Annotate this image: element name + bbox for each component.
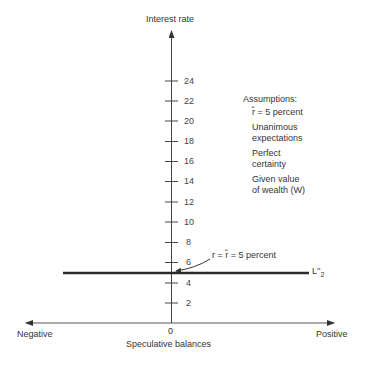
y-tick-label-14: 14 [184, 176, 194, 186]
y-tick-label-12: 12 [184, 197, 194, 207]
y-tick-label-10: 10 [184, 217, 194, 227]
curve-label: L''2 [312, 266, 324, 280]
y-axis-title: Interest rate [146, 14, 194, 25]
assumption-certainty-line2: certainty [252, 159, 305, 170]
assumption-wealth-line1: Given value [252, 174, 305, 185]
y-tick-label-6: 6 [186, 257, 191, 267]
assumption-certainty-line1: Perfect [252, 148, 305, 159]
assumption-rhat: r̂ = 5 percent [252, 107, 305, 118]
negative-label: Negative [17, 329, 53, 340]
assumption-wealth: Given value of wealth (W) [252, 174, 305, 196]
y-tick-label-8: 8 [186, 237, 191, 247]
y-tick-label-22: 22 [184, 96, 194, 106]
y-tick-label-20: 20 [184, 116, 194, 126]
positive-label: Positive [316, 329, 348, 340]
assumptions-box: Assumptions: r̂ = 5 percent Unanimous ex… [243, 94, 305, 200]
chart-canvas [0, 0, 366, 369]
assumption-certainty: Perfect certainty [252, 148, 305, 170]
assumptions-heading: Assumptions: [243, 94, 305, 105]
x-axis-title: Speculative balances [126, 339, 211, 350]
assumption-unanimous-line1: Unanimous [252, 122, 305, 133]
curve-label-sub: 2 [320, 271, 324, 278]
assumption-wealth-line2: of wealth (W) [252, 185, 305, 196]
y-tick-label-2: 2 [186, 298, 191, 308]
y-tick-label-18: 18 [184, 136, 194, 146]
annotation-label: r = r̂ = 5 percent [212, 250, 276, 261]
y-tick-label-24: 24 [184, 76, 194, 86]
y-tick-label-4: 4 [186, 278, 191, 288]
origin-label: 0 [168, 326, 173, 337]
assumption-unanimous-line2: expectations [252, 133, 305, 144]
annotation-arrow [176, 259, 210, 271]
assumption-unanimous: Unanimous expectations [252, 122, 305, 144]
y-tick-label-16: 16 [184, 156, 194, 166]
